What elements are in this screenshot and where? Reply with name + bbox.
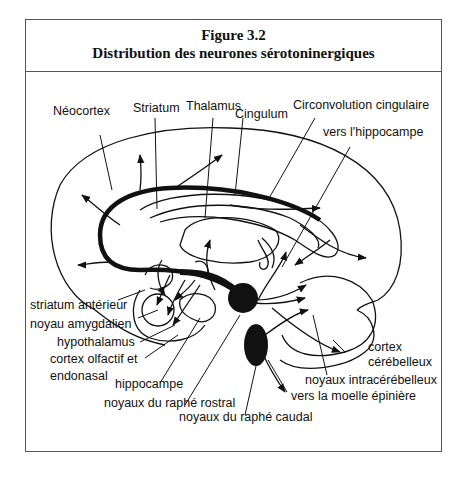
label-neocortex: Néocortex bbox=[53, 104, 110, 118]
label-vers-moelle: vers la moelle épinière bbox=[291, 389, 416, 403]
label-hippocampe: hippocampe bbox=[115, 377, 183, 391]
serotonin-pathways bbox=[100, 188, 320, 298]
label-thalamus: Thalamus bbox=[186, 99, 241, 113]
raphe-rostral-nucleus bbox=[228, 283, 258, 313]
label-vers-hippocampe: vers l'hippocampe bbox=[323, 125, 423, 139]
label-noyaux-intracerebelleux: noyaux intracérébelleux bbox=[305, 373, 437, 387]
label-cortex-cerebelleux-2: cérébelleux bbox=[368, 355, 432, 369]
label-cortex-olfactif: cortex olfactif et bbox=[50, 352, 138, 366]
raphe-caudal-nucleus bbox=[244, 324, 268, 366]
label-striatum: Striatum bbox=[133, 101, 180, 115]
label-striatum-anterieur: striatum antérieur bbox=[30, 298, 127, 312]
label-endonasal: endonasal bbox=[50, 369, 108, 383]
label-raphe-rostral: noyaux du raphé rostral bbox=[104, 396, 235, 410]
label-hypothalamus: hypothalamus bbox=[57, 335, 135, 349]
label-cortex-cerebelleux-1: cortex bbox=[368, 340, 402, 354]
label-cingulum: Cingulum bbox=[235, 107, 288, 121]
leader-lines bbox=[100, 118, 350, 415]
label-raphe-caudal: noyaux du raphé caudal bbox=[179, 410, 312, 424]
label-noyau-amygdalien: noyau amygdalien bbox=[30, 317, 131, 331]
label-circonvolution-cingulaire: Circonvolution cingulaire bbox=[293, 98, 429, 112]
